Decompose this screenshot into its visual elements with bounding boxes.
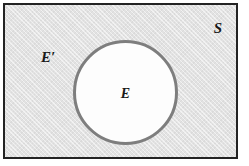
universal-set-rectangle: E′ S E	[3, 3, 238, 159]
complement-set-label: E′	[41, 50, 55, 65]
event-set-label: E	[76, 87, 175, 101]
venn-diagram-figure: E′ S E	[0, 0, 249, 166]
event-set-circle: E	[73, 40, 178, 145]
universal-set-label: S	[214, 21, 222, 36]
